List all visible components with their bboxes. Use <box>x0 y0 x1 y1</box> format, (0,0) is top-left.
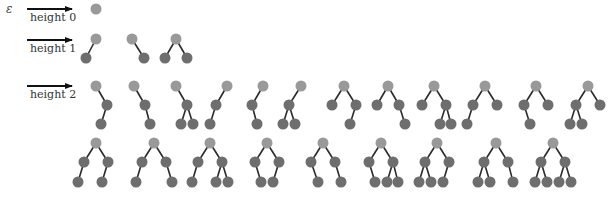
root-node <box>205 138 216 149</box>
tree-node <box>252 119 263 130</box>
tree-node <box>566 177 577 188</box>
tree-node <box>388 157 399 168</box>
tree-node <box>256 177 267 188</box>
tree-node <box>336 177 347 188</box>
tree-node <box>543 100 554 111</box>
root-node <box>222 81 233 92</box>
binary-tree <box>171 81 199 130</box>
tree-node <box>223 177 234 188</box>
binary-tree <box>473 138 519 188</box>
tree-node <box>503 157 514 168</box>
root-node <box>376 138 387 149</box>
tree-node <box>508 177 519 188</box>
root-node <box>480 81 491 92</box>
tree-node <box>446 119 457 130</box>
tree-node <box>479 157 490 168</box>
root-node <box>91 81 102 92</box>
root-node <box>171 34 182 45</box>
tree-node <box>438 177 449 188</box>
height-label: height 0 <box>30 11 76 24</box>
binary-tree <box>81 34 102 64</box>
tree-node <box>492 100 503 111</box>
binary-tree <box>519 81 554 130</box>
root-node <box>383 81 394 92</box>
tree-node <box>96 119 107 130</box>
root-node <box>262 138 273 149</box>
root-node <box>91 138 102 149</box>
tree-node <box>182 100 193 111</box>
tree-node <box>217 157 228 168</box>
tree-node <box>167 177 178 188</box>
tree-node <box>536 157 547 168</box>
tree-node <box>420 157 431 168</box>
tree-node <box>102 100 113 111</box>
height-levels: height 0height 1height 2 <box>27 4 606 188</box>
tree-node <box>473 177 484 188</box>
tree-node <box>176 119 187 130</box>
binary-trees-by-height-diagram: ε height 0height 1height 2 <box>0 0 612 199</box>
tree-node <box>145 119 156 130</box>
tree-node <box>327 100 338 111</box>
tree-node <box>290 119 301 130</box>
root-node <box>91 34 102 45</box>
binary-tree <box>73 138 114 188</box>
tree-node <box>160 53 171 64</box>
epsilon-label: ε <box>6 2 12 16</box>
tree-node <box>441 100 452 111</box>
tree-node <box>571 100 582 111</box>
tree-node <box>560 157 571 168</box>
binary-tree <box>131 138 178 188</box>
root-node <box>171 81 182 92</box>
tree-node <box>351 100 362 111</box>
binary-tree <box>91 4 102 15</box>
root-node <box>129 81 140 92</box>
tree-node <box>247 100 258 111</box>
tree-node <box>426 177 437 188</box>
root-node <box>127 34 138 45</box>
tree-node <box>577 119 588 130</box>
tree-node <box>345 119 356 130</box>
tree-node <box>393 177 404 188</box>
binary-tree <box>565 81 606 130</box>
tree-node <box>525 119 536 130</box>
root-node <box>149 138 160 149</box>
root-node <box>91 4 102 15</box>
binary-tree <box>278 81 307 130</box>
binary-tree <box>250 138 285 188</box>
tree-node <box>139 53 150 64</box>
tree-node <box>140 100 151 111</box>
tree-node <box>542 177 553 188</box>
tree-node <box>131 177 142 188</box>
tree-node <box>250 157 261 168</box>
tree-node <box>313 177 324 188</box>
tree-node <box>79 157 90 168</box>
height-label: height 2 <box>30 88 76 101</box>
binary-tree <box>414 138 455 188</box>
tree-node <box>400 119 411 130</box>
binary-tree <box>187 138 234 188</box>
root-node <box>296 81 307 92</box>
height-level-1: height 1 <box>27 34 193 64</box>
tree-node <box>137 157 148 168</box>
binary-tree <box>327 81 362 130</box>
tree-node <box>462 119 473 130</box>
root-node <box>548 138 559 149</box>
tree-node <box>330 157 341 168</box>
root-node <box>491 138 502 149</box>
tree-node <box>444 157 455 168</box>
root-node <box>258 81 269 92</box>
tree-node <box>73 177 84 188</box>
root-node <box>318 138 329 149</box>
tree-node <box>284 100 295 111</box>
binary-tree <box>417 81 457 130</box>
tree-node <box>372 100 383 111</box>
tree-node <box>211 100 222 111</box>
binary-tree <box>306 138 347 188</box>
tree-node <box>382 177 393 188</box>
tree-node <box>161 157 172 168</box>
root-node <box>432 138 443 149</box>
tree-node <box>417 100 428 111</box>
root-node <box>429 81 440 92</box>
binary-tree <box>205 81 233 130</box>
tree-node <box>205 119 216 130</box>
